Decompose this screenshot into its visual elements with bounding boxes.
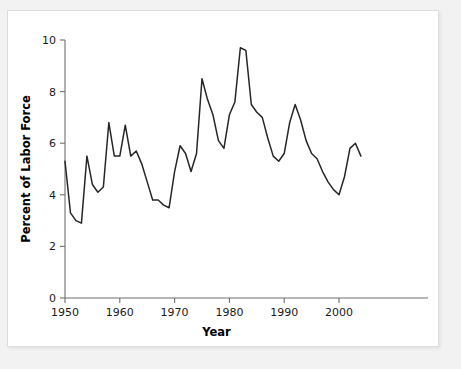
y-tick-label: 6 xyxy=(49,137,56,150)
x-tick-label: 2000 xyxy=(325,306,353,319)
figure-root: 0246810195019601970198019902000YearPerce… xyxy=(0,0,461,369)
x-tick-label: 1980 xyxy=(215,306,243,319)
y-axis-title: Percent of Labor Force xyxy=(19,95,33,243)
y-tick-label: 2 xyxy=(49,240,56,253)
y-tick-label: 10 xyxy=(42,34,56,47)
x-tick-label: 1990 xyxy=(270,306,298,319)
y-tick-label: 0 xyxy=(49,292,56,305)
x-tick-label: 1960 xyxy=(106,306,134,319)
x-tick-label: 1950 xyxy=(51,306,79,319)
line-chart: 0246810195019601970198019902000YearPerce… xyxy=(8,11,438,346)
data-series-line xyxy=(65,48,361,223)
x-axis-title: Year xyxy=(201,325,231,339)
chart-panel: 0246810195019601970198019902000YearPerce… xyxy=(7,10,439,347)
x-tick-label: 1970 xyxy=(161,306,189,319)
y-tick-label: 4 xyxy=(49,189,56,202)
y-tick-label: 8 xyxy=(49,86,56,99)
